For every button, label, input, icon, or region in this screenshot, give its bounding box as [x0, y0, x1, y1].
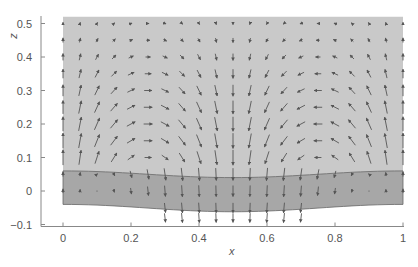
- vector-arrow: [386, 22, 387, 24]
- vector-arrow: [368, 190, 369, 191]
- y-tick-label: 0.3: [2, 85, 32, 96]
- x-tick-label: 0.8: [327, 233, 342, 244]
- vector-arrow: [199, 185, 200, 196]
- vector-arrow: [182, 213, 183, 223]
- y-tick-label: 0.5: [2, 18, 32, 29]
- x-tick-label: 0.6: [259, 233, 274, 244]
- fluid-regions: [63, 17, 403, 212]
- x-tick-label: 1: [400, 233, 406, 244]
- vector-arrow: [250, 168, 251, 180]
- quiver-plot: [0, 0, 418, 267]
- vector-arrow: [216, 168, 217, 180]
- x-tick-label: 0.4: [191, 233, 206, 244]
- y-tick-label: 0.2: [2, 119, 32, 130]
- vector-arrow: [96, 190, 97, 191]
- y-tick-label: 0.1: [2, 152, 32, 163]
- y-tick-label: −0.1: [2, 219, 32, 230]
- y-tick-label: 0: [2, 186, 32, 197]
- vector-arrow: [80, 22, 81, 24]
- vector-arrow: [164, 213, 165, 222]
- vector-arrow: [199, 213, 200, 222]
- vector-arrow: [300, 213, 301, 222]
- x-tick-label: 0: [60, 233, 66, 244]
- vector-arrow: [216, 22, 217, 24]
- x-tick-label: 0.2: [123, 233, 138, 244]
- vector-arrow: [267, 213, 268, 222]
- vector-arrow: [250, 22, 251, 24]
- x-axis-title: x: [229, 245, 235, 257]
- vector-arrow: [284, 213, 285, 223]
- vector-arrow: [80, 172, 81, 176]
- vector-arrow: [386, 172, 387, 176]
- vector-arrow: [267, 185, 268, 196]
- y-tick-label: 0.4: [2, 52, 32, 63]
- y-axis-title: z: [7, 33, 19, 39]
